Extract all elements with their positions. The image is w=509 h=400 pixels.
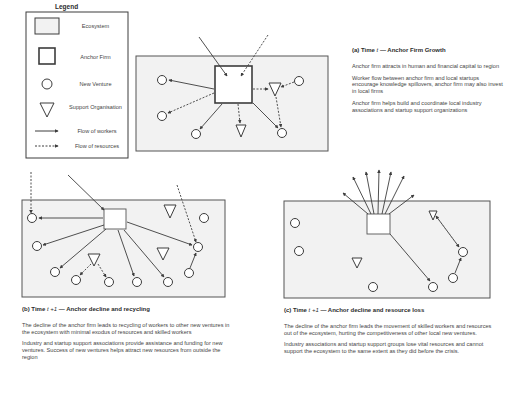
panel-b-paragraph: The decline of the anchor firm leads to …	[22, 322, 232, 336]
new-venture	[291, 219, 300, 228]
panel-c-diagram	[284, 170, 490, 298]
panel-a-text: (a) Time t — Anchor Firm Growth Anchor f…	[352, 47, 507, 119]
new-venture	[51, 268, 60, 277]
anchor-firm	[104, 209, 126, 229]
new-venture	[278, 129, 287, 138]
new-venture	[192, 130, 201, 139]
panel-b-text: (b) Time t +1 — Anchor decline and recyc…	[22, 306, 232, 366]
new-venture	[295, 77, 304, 86]
panel-a-paragraph: Worker flow between anchor firm and loca…	[352, 75, 507, 95]
new-venture	[164, 278, 173, 287]
new-venture	[200, 214, 209, 223]
legend-label-workers: Flow of workers	[66, 128, 128, 134]
panel-c-caption: (c) Time t +1 — Anchor decline and resou…	[284, 307, 494, 314]
new-venture	[429, 283, 438, 292]
new-venture	[158, 112, 167, 121]
legend-label-anchor-firm: Anchor Firm	[68, 54, 123, 60]
anchor-firm	[367, 214, 390, 234]
new-venture	[369, 283, 378, 292]
panel-a-caption: (a) Time t — Anchor Firm Growth	[352, 47, 507, 54]
panel-c-paragraph: Industry associations and startup suppor…	[284, 341, 494, 355]
new-venture	[194, 243, 203, 252]
legend-anchor-firm-symbol	[39, 48, 55, 64]
legend-new-venture-symbol	[42, 79, 52, 89]
legend-label-new-venture: New Venture	[68, 81, 123, 87]
legend-ecosystem-symbol	[35, 18, 59, 34]
legend-label-support-org: Support Organisation	[68, 104, 123, 110]
panel-c-paragraph: The decline of the anchor firm leads the…	[284, 323, 494, 337]
panel-c-text: (c) Time t +1 — Anchor decline and resou…	[284, 307, 494, 360]
panel-b-diagram	[22, 172, 225, 297]
new-venture	[72, 276, 81, 285]
panel-b-caption: (b) Time t +1 — Anchor decline and recyc…	[22, 306, 232, 313]
anchor-firm	[215, 66, 252, 103]
panel-a-diagram	[136, 35, 328, 151]
new-venture	[158, 76, 167, 85]
new-venture	[185, 269, 194, 278]
legend-label-resources: Flow of resources	[64, 143, 130, 149]
legend-title: Legend	[55, 3, 78, 10]
new-venture	[28, 214, 37, 223]
panel-a-paragraph: Anchor firm helps build and coordinate l…	[352, 100, 507, 114]
panel-a-paragraph: Anchor firm attracts in human and financ…	[352, 63, 507, 70]
new-venture	[133, 278, 142, 287]
new-venture	[459, 248, 468, 257]
new-venture	[33, 242, 42, 251]
new-venture	[105, 278, 114, 287]
panel-b-paragraph: Industry and startup support association…	[22, 340, 232, 360]
new-venture	[295, 247, 304, 256]
new-venture	[449, 274, 458, 283]
legend-label-ecosystem: Ecosystem	[68, 23, 123, 29]
